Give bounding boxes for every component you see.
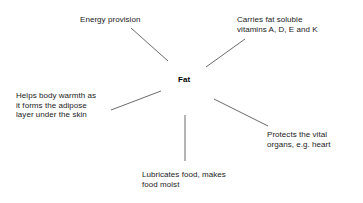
connector-protects-organs bbox=[214, 99, 268, 126]
branch-lubricates-food: Lubricates food, makes food moist bbox=[142, 170, 226, 189]
connector-body-warmth bbox=[111, 91, 161, 110]
branch-protects-organs: Protects the vital organs, e.g. heart bbox=[267, 130, 331, 149]
diagram-canvas: Fat Energy provision Carries fat soluble… bbox=[0, 0, 363, 203]
center-node-fat: Fat bbox=[178, 75, 190, 84]
connector-fat-soluble-vitamins bbox=[206, 39, 245, 67]
branch-fat-soluble-vitamins: Carries fat soluble vitamins A, D, E and… bbox=[237, 15, 318, 34]
connector-energy-provision bbox=[131, 28, 168, 61]
branch-energy-provision: Energy provision bbox=[80, 15, 140, 25]
branch-body-warmth: Helps body warmth as it forms the adipos… bbox=[16, 91, 96, 120]
